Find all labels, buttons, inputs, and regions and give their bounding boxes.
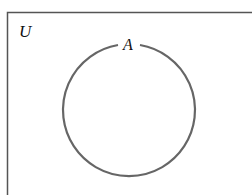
universal-set-label: U xyxy=(19,22,33,41)
set-a-label: A xyxy=(122,36,133,53)
venn-diagram: U A xyxy=(0,0,252,195)
set-a-circle xyxy=(63,45,195,176)
